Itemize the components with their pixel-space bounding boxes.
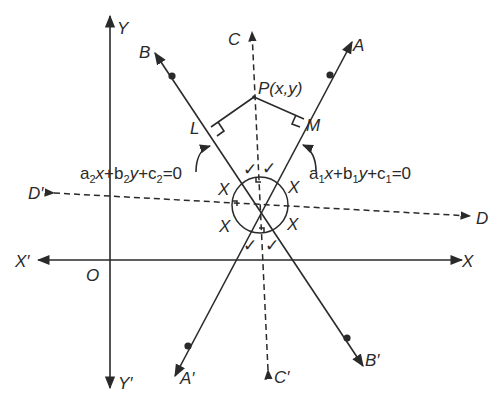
angle-x-lower-left: X <box>218 217 231 236</box>
point-dot-b-prime <box>343 334 350 341</box>
equation-line-1: a1x+b1y+c1=0 <box>309 164 411 185</box>
equation-line-2: a2x+b2y+c2=0 <box>80 164 182 185</box>
point-dot-b <box>168 72 175 79</box>
check-mark-lower-right: ✓ <box>265 236 279 255</box>
label-p-name: P <box>258 79 270 98</box>
equation-pointer-2 <box>196 146 210 172</box>
perpendicular-pl <box>211 97 254 136</box>
label-c-prime: C′ <box>274 368 290 387</box>
label-d: D <box>476 209 488 228</box>
label-origin: O <box>86 266 99 285</box>
label-x-prime: X′ <box>14 252 30 271</box>
label-y: Y <box>117 19 130 38</box>
perpendicular-pm <box>254 97 304 127</box>
point-dot-a <box>326 71 333 78</box>
label-b-prime: B′ <box>365 351 380 370</box>
bisector-diagram: Y Y′ X X′ O A A′ B B′ C C′ D D′ P(x,y) L… <box>0 0 501 411</box>
angle-x-upper-left: X <box>217 180 230 199</box>
label-l: L <box>190 119 199 138</box>
label-p-coords: (x,y) <box>269 79 302 98</box>
label-d-prime: D′ <box>28 184 44 203</box>
point-dot-a-prime <box>184 342 191 349</box>
angle-x-lower-right: X <box>286 215 299 234</box>
label-c: C <box>228 30 241 49</box>
check-mark-upper-left: ✓ <box>243 160 257 179</box>
check-mark-lower-left: ✓ <box>243 236 257 255</box>
angle-x-upper-right: X <box>287 178 300 197</box>
label-y-prime: Y′ <box>118 374 133 393</box>
point-p-dot <box>252 95 256 99</box>
label-x: X <box>461 252 474 271</box>
label-p: P(x,y) <box>258 79 302 98</box>
label-m: M <box>306 116 321 135</box>
check-mark-upper-right: ✓ <box>262 159 276 178</box>
label-b: B <box>139 43 150 62</box>
label-a-prime: A′ <box>179 369 195 388</box>
label-a: A <box>352 36 364 55</box>
